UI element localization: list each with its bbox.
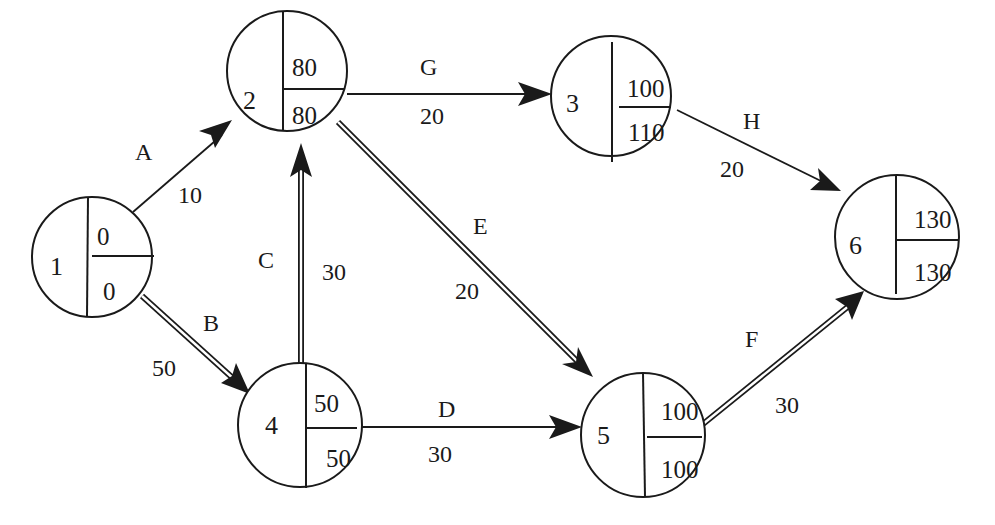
- node-3: 3 100 110: [551, 36, 671, 162]
- node-5-earliest: 100: [661, 398, 699, 425]
- edge-e-duration: 20: [455, 278, 479, 304]
- node-6: 6 130 130: [835, 175, 959, 299]
- edge-d: [362, 415, 582, 439]
- edge-f-duration: 30: [775, 392, 799, 418]
- edge-a-name: A: [135, 139, 153, 165]
- edge-c: [290, 143, 312, 363]
- edge-b-name: B: [203, 310, 219, 336]
- node-2-latest: 80: [292, 102, 317, 129]
- node-2: 2 80 80: [227, 11, 347, 131]
- node-6-earliest: 130: [914, 206, 952, 233]
- node-3-latest: 110: [628, 119, 665, 146]
- arrowhead-icon: [199, 120, 232, 148]
- edge-d-name: D: [438, 396, 455, 422]
- edge-e-name: E: [473, 213, 488, 239]
- node-5-id: 5: [597, 421, 610, 450]
- node-1: 1 0 0: [32, 197, 154, 317]
- edge-h-duration: 20: [720, 156, 744, 182]
- node-2-id: 2: [243, 86, 256, 115]
- edge-f-name: F: [745, 326, 758, 352]
- edge-c-name: C: [258, 247, 274, 273]
- node-1-earliest: 0: [97, 223, 110, 250]
- node-3-earliest: 100: [627, 75, 665, 102]
- network-diagram: A 10 B 50 C 30 D 30 E 20 F 30 G 20 H 20 …: [0, 0, 995, 525]
- edge-h-name: H: [743, 108, 760, 134]
- node-4-id: 4: [265, 411, 278, 440]
- node-2-earliest: 80: [292, 54, 317, 81]
- node-4: 4 50 50: [238, 363, 362, 488]
- edge-g-duration: 20: [420, 103, 444, 129]
- edge-a-duration: 10: [178, 182, 202, 208]
- edge-b-duration: 50: [152, 355, 176, 381]
- edge-c-duration: 30: [322, 259, 346, 285]
- node-1-id: 1: [50, 252, 63, 281]
- edge-e: [338, 122, 593, 377]
- edge-g-name: G: [420, 54, 437, 80]
- node-4-earliest: 50: [314, 390, 339, 417]
- node-1-latest: 0: [103, 278, 116, 305]
- node-6-latest: 130: [914, 259, 952, 286]
- arrowhead-icon: [810, 168, 841, 191]
- node-6-id: 6: [849, 231, 862, 260]
- node-5-latest: 100: [661, 456, 699, 483]
- edge-g: [347, 82, 552, 106]
- edge-d-duration: 30: [428, 441, 452, 467]
- node-5: 5 100 100: [581, 373, 705, 497]
- node-4-latest: 50: [326, 445, 351, 472]
- node-3-id: 3: [566, 89, 579, 118]
